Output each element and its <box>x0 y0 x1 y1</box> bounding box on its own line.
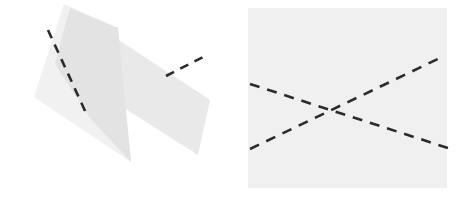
right-panel-group <box>248 8 448 188</box>
left-panel-group <box>34 4 210 162</box>
axis-aligned-gray-rectangle <box>248 8 447 188</box>
figure-canvas: Two geometric figure panels with dashed … <box>0 0 461 203</box>
figure-svg-root <box>0 0 461 203</box>
dashed-line-minor-diagonal <box>166 55 207 76</box>
